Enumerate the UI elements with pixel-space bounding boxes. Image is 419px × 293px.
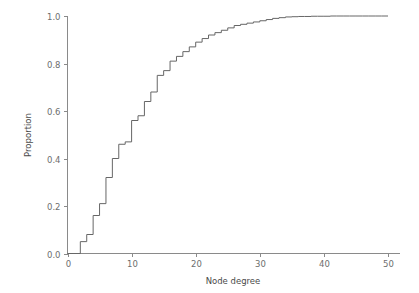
x-tick-label: 10	[127, 259, 138, 269]
ecdf-chart: 01020304050 0.00.20.40.60.81.0 Node degr…	[0, 0, 419, 293]
x-axis-title: Node degree	[206, 276, 261, 286]
y-tick-marks	[64, 17, 68, 255]
x-tick-label: 0	[66, 259, 71, 269]
x-tick-label: 20	[191, 259, 202, 269]
chart-figure: 01020304050 0.00.20.40.60.81.0 Node degr…	[0, 0, 419, 293]
y-tick-labels: 0.00.20.40.60.81.0	[47, 12, 61, 260]
y-tick-label: 0.0	[47, 250, 61, 260]
y-tick-label: 0.2	[47, 202, 61, 212]
x-tick-label: 30	[255, 259, 266, 269]
y-tick-label: 0.4	[47, 155, 61, 165]
y-tick-label: 0.8	[47, 60, 61, 70]
plot-background	[67, 16, 388, 253]
x-tick-marks	[69, 254, 389, 258]
y-tick-label: 0.6	[47, 107, 61, 117]
x-tick-labels: 01020304050	[66, 259, 394, 269]
y-tick-label: 1.0	[47, 12, 61, 22]
plot-area	[64, 16, 400, 257]
x-tick-label: 50	[383, 259, 394, 269]
x-tick-label: 40	[319, 259, 330, 269]
y-axis-title: Proportion	[23, 113, 33, 157]
